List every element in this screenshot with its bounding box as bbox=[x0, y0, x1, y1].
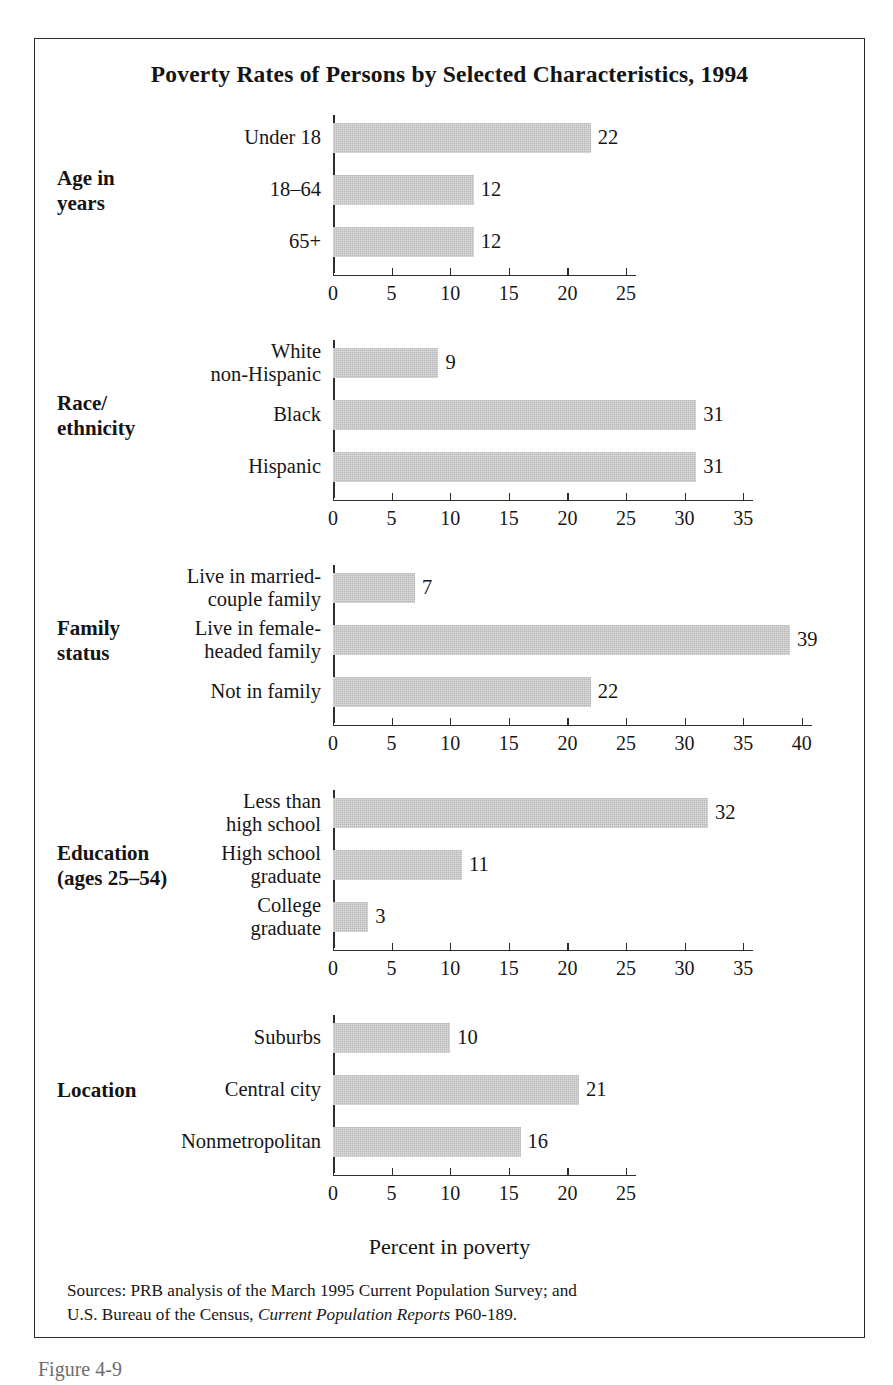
x-axis-tick-label: 20 bbox=[557, 282, 577, 305]
panel-plot-area: Live in married- couple family7Live in f… bbox=[333, 561, 814, 759]
bar bbox=[333, 573, 415, 603]
x-axis-tick bbox=[509, 718, 510, 725]
x-axis-tick bbox=[509, 943, 510, 950]
bar bbox=[333, 1127, 521, 1157]
sources-line-1: Sources: PRB analysis of the March 1995 … bbox=[67, 1279, 824, 1303]
x-axis-tick-label: 25 bbox=[616, 732, 636, 755]
bar-value-label: 7 bbox=[415, 576, 432, 599]
x-axis-tick bbox=[509, 268, 510, 275]
bar-row: 18–6412 bbox=[333, 175, 638, 205]
sources-publication-title: Current Population Reports bbox=[258, 1305, 450, 1324]
x-axis-line bbox=[333, 950, 753, 951]
panel-plot-area: Under 182218–641265+120510152025 bbox=[333, 111, 638, 309]
bar-category-label: College graduate bbox=[61, 894, 321, 941]
bar-row: College graduate3 bbox=[333, 902, 755, 932]
bar-value-label: 12 bbox=[474, 178, 502, 201]
bar bbox=[333, 348, 438, 378]
x-axis-tick-label: 20 bbox=[557, 507, 577, 530]
x-axis-tick-label: 25 bbox=[616, 957, 636, 980]
bar bbox=[333, 677, 591, 707]
chart-panels: Age inyearsUnder 182218–641265+120510152… bbox=[35, 111, 864, 1236]
x-axis-tick bbox=[567, 268, 568, 275]
x-axis-tick-label: 15 bbox=[499, 732, 519, 755]
bar-value-label: 32 bbox=[708, 801, 736, 824]
x-axis-tick-label: 10 bbox=[440, 507, 460, 530]
bar-category-label: Live in female- headed family bbox=[61, 617, 321, 664]
bar-value-label: 31 bbox=[696, 403, 724, 426]
bar-row: Black31 bbox=[333, 400, 755, 430]
x-axis-tick-label: 15 bbox=[499, 1182, 519, 1205]
x-axis-tick-label: 35 bbox=[733, 957, 753, 980]
x-axis-tick-label: 15 bbox=[499, 957, 519, 980]
bar-category-label: High school graduate bbox=[61, 842, 321, 889]
bar-value-label: 12 bbox=[474, 230, 502, 253]
x-axis-tick bbox=[567, 1168, 568, 1175]
x-axis-tick-label: 20 bbox=[557, 957, 577, 980]
x-axis-line bbox=[333, 1175, 636, 1176]
bar-category-label: Less than high school bbox=[61, 790, 321, 837]
x-axis-tick-label: 40 bbox=[792, 732, 812, 755]
chart-panel: FamilystatusLive in married- couple fami… bbox=[35, 561, 864, 786]
x-axis-tick bbox=[392, 943, 393, 950]
x-axis-tick bbox=[392, 718, 393, 725]
bar-row: 65+12 bbox=[333, 227, 638, 257]
bar bbox=[333, 1075, 579, 1105]
x-axis-caption: Percent in poverty bbox=[35, 1234, 864, 1260]
x-axis-tick bbox=[567, 493, 568, 500]
chart-panel: Race/ethnicityWhite non-Hispanic9Black31… bbox=[35, 336, 864, 561]
bar-value-label: 22 bbox=[591, 680, 619, 703]
x-axis-tick bbox=[626, 493, 627, 500]
x-axis-tick bbox=[509, 493, 510, 500]
bar-category-label: 65+ bbox=[61, 230, 321, 253]
x-axis-tick bbox=[567, 718, 568, 725]
bar bbox=[333, 123, 591, 153]
x-axis-tick-label: 5 bbox=[387, 282, 397, 305]
x-axis-line bbox=[333, 725, 812, 726]
bar bbox=[333, 175, 474, 205]
bar-category-label: Not in family bbox=[61, 680, 321, 703]
bar-category-label: Central city bbox=[61, 1078, 321, 1101]
x-axis-tick-label: 0 bbox=[328, 1182, 338, 1205]
bar-row: Nonmetropolitan16 bbox=[333, 1127, 638, 1157]
bar bbox=[333, 227, 474, 257]
sources-prefix: U.S. Bureau of the Census, bbox=[67, 1305, 258, 1324]
bar bbox=[333, 1023, 450, 1053]
x-axis-line bbox=[333, 275, 636, 276]
x-axis-tick-label: 15 bbox=[499, 282, 519, 305]
sources-line-2: U.S. Bureau of the Census, Current Popul… bbox=[67, 1303, 824, 1327]
x-axis-tick-label: 0 bbox=[328, 957, 338, 980]
x-axis-tick-label: 35 bbox=[733, 507, 753, 530]
x-axis-tick bbox=[743, 943, 744, 950]
bar bbox=[333, 400, 696, 430]
bar-row: Live in married- couple family7 bbox=[333, 573, 814, 603]
x-axis-tick-label: 30 bbox=[675, 732, 695, 755]
bar-category-label: Live in married- couple family bbox=[61, 565, 321, 612]
x-axis-tick bbox=[333, 943, 334, 950]
x-axis-tick bbox=[626, 718, 627, 725]
x-axis-tick-label: 30 bbox=[675, 507, 695, 530]
bar bbox=[333, 452, 696, 482]
chart-title: Poverty Rates of Persons by Selected Cha… bbox=[35, 61, 864, 88]
x-axis-tick-label: 10 bbox=[440, 957, 460, 980]
figure-frame: Poverty Rates of Persons by Selected Cha… bbox=[34, 38, 865, 1338]
chart-panel: Age inyearsUnder 182218–641265+120510152… bbox=[35, 111, 864, 336]
chart-panel: Education(ages 25–54)Less than high scho… bbox=[35, 786, 864, 1011]
bar-category-label: Hispanic bbox=[61, 455, 321, 478]
x-axis-tick-label: 0 bbox=[328, 282, 338, 305]
chart-panel: LocationSuburbs10Central city21Nonmetrop… bbox=[35, 1011, 864, 1236]
panel-plot-area: White non-Hispanic9Black31Hispanic310510… bbox=[333, 336, 755, 534]
bar-row: Not in family22 bbox=[333, 677, 814, 707]
bar-category-label: White non-Hispanic bbox=[61, 340, 321, 387]
bar-row: Less than high school32 bbox=[333, 798, 755, 828]
bar-value-label: 31 bbox=[696, 455, 724, 478]
bar bbox=[333, 850, 462, 880]
x-axis-tick-label: 15 bbox=[499, 507, 519, 530]
x-axis-tick bbox=[450, 943, 451, 950]
x-axis-tick bbox=[333, 493, 334, 500]
bar-row: Live in female- headed family39 bbox=[333, 625, 814, 655]
x-axis-tick-label: 25 bbox=[616, 282, 636, 305]
bar-value-label: 3 bbox=[368, 905, 385, 928]
bar-category-label: Nonmetropolitan bbox=[61, 1130, 321, 1153]
bar-category-label: 18–64 bbox=[61, 178, 321, 201]
x-axis-tick bbox=[509, 1168, 510, 1175]
